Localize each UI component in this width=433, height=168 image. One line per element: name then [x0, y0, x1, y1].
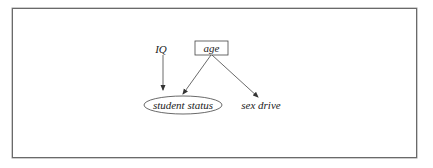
node-iq-label: IQ: [154, 43, 167, 55]
edge-age-to-sex-drive: [212, 55, 258, 97]
causal-diagram: IQ age student status sex drive: [0, 0, 433, 168]
edge-age-to-student-status: [183, 55, 211, 94]
node-student-status-label: student status: [153, 99, 213, 111]
node-age: age: [195, 41, 228, 55]
node-sex-drive-label: sex drive: [241, 99, 281, 111]
node-sex-drive: sex drive: [241, 99, 281, 111]
node-iq: IQ: [154, 43, 167, 55]
node-age-label: age: [204, 42, 220, 54]
node-student-status: student status: [144, 96, 222, 114]
